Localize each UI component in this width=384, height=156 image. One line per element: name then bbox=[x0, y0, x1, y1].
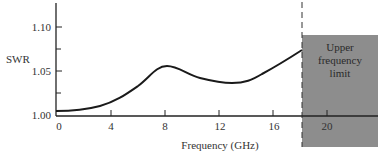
x-tick-label-16: 16 bbox=[269, 120, 281, 132]
swr-curve bbox=[56, 50, 302, 111]
region-label-line3: limit bbox=[330, 67, 351, 79]
y-tick-label-1-00: 1.00 bbox=[32, 109, 52, 121]
region-label-line2: frequency bbox=[318, 54, 362, 66]
region-label-line1: Upper bbox=[326, 41, 354, 53]
y-axis-label: SWR bbox=[6, 53, 31, 65]
y-tick-label-1-10: 1.10 bbox=[32, 21, 52, 33]
x-tick-label-12: 12 bbox=[215, 120, 226, 132]
y-tick-label-1-05: 1.05 bbox=[32, 65, 52, 77]
x-tick-label-0: 0 bbox=[56, 120, 62, 132]
swr-chart: 1.10 1.05 1.00 SWR 0 4 8 12 16 20 Freque… bbox=[0, 0, 384, 156]
x-axis-label: Frequency (GHz) bbox=[181, 139, 259, 152]
x-tick-label-4: 4 bbox=[108, 120, 114, 132]
x-tick-label-20: 20 bbox=[322, 120, 334, 132]
x-tick-label-8: 8 bbox=[162, 120, 168, 132]
